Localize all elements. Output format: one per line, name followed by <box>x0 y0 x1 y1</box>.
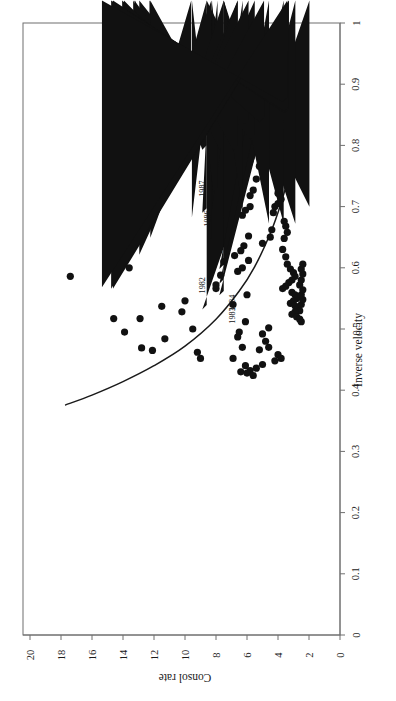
tick-label-inverse-velocity: 0.7 <box>351 200 362 213</box>
data-point-circle <box>67 273 74 280</box>
data-point-circle <box>250 186 257 193</box>
tick-label-inverse-velocity: 0.5 <box>351 322 362 335</box>
data-point-circle <box>229 355 236 362</box>
data-point-circle <box>197 355 204 362</box>
data-point-label-year: 1995 <box>241 163 250 179</box>
data-point-circle <box>279 246 286 253</box>
data-point-circle <box>267 234 274 241</box>
data-point-circle <box>259 240 266 247</box>
tick-label-inverse-velocity: 0.4 <box>351 383 362 397</box>
data-point-circle <box>282 253 289 260</box>
tick-label-consol-rate: 0 <box>335 652 346 657</box>
data-point-circle <box>242 207 249 214</box>
data-point-circle <box>236 328 243 335</box>
data-point-circle <box>161 335 168 342</box>
scatter-plot: 00.10.20.30.40.50.60.70.80.9102468101214… <box>0 0 396 701</box>
data-point-circle <box>265 324 272 331</box>
tick-label-inverse-velocity: 0.3 <box>351 445 362 458</box>
data-point-circle <box>262 338 269 345</box>
tick-label-inverse-velocity: 0.2 <box>351 506 362 519</box>
data-point-circle <box>138 344 145 351</box>
data-point-circle <box>253 365 260 372</box>
data-point-circle <box>212 281 219 288</box>
data-point-circle <box>271 357 278 364</box>
data-point-circle <box>250 372 257 379</box>
tick-label-inverse-velocity: 0.6 <box>351 261 362 274</box>
data-point-circle <box>181 297 188 304</box>
data-point-circle <box>253 175 260 182</box>
data-point-circle <box>110 315 117 322</box>
data-point-circle <box>245 232 252 239</box>
data-point-circle <box>237 368 244 375</box>
data-point-label-year: 1988 <box>221 205 230 221</box>
data-point-circle <box>256 346 263 353</box>
data-point-circle <box>149 347 156 354</box>
data-point-circle <box>239 344 246 351</box>
tick-label-inverse-velocity: 0 <box>351 632 362 637</box>
data-point-label-year: 1992 <box>227 162 236 178</box>
tick-label-inverse-velocity: 1 <box>351 20 362 25</box>
data-point-label-year: 1982 <box>198 277 207 293</box>
data-point-circle <box>259 361 266 368</box>
tick-label-inverse-velocity: 0.1 <box>351 567 362 580</box>
data-point-circle <box>243 369 250 376</box>
data-point-circle <box>136 315 143 322</box>
data-point-circle <box>279 285 286 292</box>
data-point-circle <box>284 229 291 236</box>
data-point-label-year: 1996 <box>253 137 262 153</box>
tick-label-inverse-velocity: 0.8 <box>351 139 362 152</box>
data-point-circle <box>234 268 241 275</box>
tick-label-consol-rate: 16 <box>87 650 98 661</box>
data-point-circle <box>278 355 285 362</box>
data-point-circle <box>268 226 275 233</box>
tick-label-consol-rate: 12 <box>149 650 160 661</box>
figure-canvas: 00.10.20.30.40.50.60.70.80.9102468101214… <box>0 0 396 701</box>
data-point-label-year: 1985 <box>215 238 224 254</box>
data-point-label-year: 1994 <box>241 147 250 163</box>
tick-label-consol-rate: 14 <box>118 649 129 660</box>
data-point-circle <box>178 308 185 315</box>
tick-label-consol-rate: 2 <box>304 652 315 657</box>
data-point-circle <box>259 330 266 337</box>
tick-label-consol-rate: 18 <box>56 650 67 661</box>
data-point-circle <box>194 349 201 356</box>
data-point-circle <box>242 362 249 369</box>
tick-label-consol-rate: 6 <box>242 652 253 657</box>
data-point-label-year: 2000 <box>292 116 301 132</box>
data-point-circle <box>281 235 288 242</box>
tick-label-consol-rate: 4 <box>273 652 284 658</box>
data-point-circle <box>243 291 250 298</box>
data-point-circle <box>298 276 305 283</box>
data-point-circle <box>282 223 289 230</box>
data-point-label-year: 1997 <box>269 135 278 151</box>
data-point-circle <box>242 318 249 325</box>
data-point-label-year: 1986 <box>203 210 212 226</box>
data-point-circle <box>189 325 196 332</box>
tick-label-consol-rate: 20 <box>25 650 36 661</box>
data-point-circle <box>245 257 252 264</box>
data-point-label-year: 1987 <box>198 180 207 196</box>
tick-label-inverse-velocity: 0.9 <box>351 78 362 91</box>
data-point-label-year: 1984 <box>228 295 237 311</box>
data-point-circle <box>299 261 306 268</box>
data-point-circle <box>231 252 238 259</box>
data-point-circle <box>121 328 128 335</box>
data-point-circle <box>298 318 305 325</box>
tick-label-consol-rate: 10 <box>180 650 191 661</box>
data-point-circle <box>240 242 247 249</box>
tick-label-consol-rate: 8 <box>211 652 222 657</box>
data-point-circle <box>270 209 277 216</box>
data-point-circle <box>158 303 165 310</box>
data-point-circle <box>265 344 272 351</box>
